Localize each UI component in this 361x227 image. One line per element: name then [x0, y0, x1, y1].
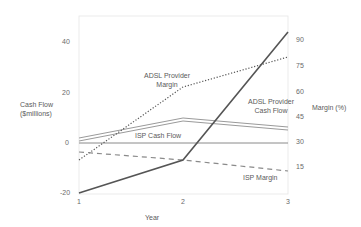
y-left-title-line2: ($millions)	[20, 109, 52, 118]
y-left-title-line1: Cash Flow	[20, 100, 53, 109]
y-left-tick: 20	[62, 89, 70, 97]
x-axis-title: Year	[145, 213, 159, 222]
y-right-tick: 75	[296, 62, 304, 70]
y-left-tick: 0	[65, 139, 69, 147]
adsl-cash-label-line2: Cash Flow	[238, 106, 304, 115]
y-right-tick: 15	[296, 163, 304, 171]
y-left-tick: -20	[60, 189, 70, 197]
y-left-tick: 40	[62, 38, 70, 46]
y-right-title: Margin (%)	[312, 103, 346, 112]
isp-margin-line	[79, 152, 288, 171]
isp-margin-label: ISP Margin	[243, 173, 278, 182]
isp-cash-label: ISP Cash Flow	[135, 131, 181, 140]
y-right-tick: 60	[296, 88, 304, 96]
x-tick: 3	[286, 198, 290, 206]
chart-plot	[0, 0, 361, 227]
adsl-margin-label-line2: Margin	[134, 80, 200, 89]
y-right-tick: 90	[296, 36, 304, 44]
x-tick: 1	[77, 198, 81, 206]
y-right-tick: 30	[296, 138, 304, 146]
adsl-cash-label-line1: ADSL Provider	[238, 97, 304, 106]
x-tick: 2	[181, 198, 185, 206]
adsl-margin-label-line1: ADSL Provider	[134, 71, 200, 80]
